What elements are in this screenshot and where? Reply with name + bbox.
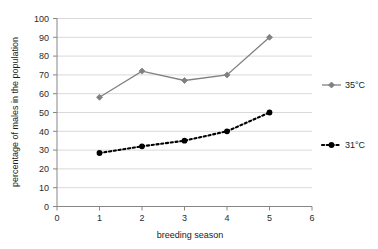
- y-tick-label: 60: [39, 89, 49, 99]
- y-tick-label: 70: [39, 70, 49, 80]
- x-tick-label: 3: [182, 213, 187, 223]
- data-point-marker: [224, 128, 230, 134]
- y-tick-label: 50: [39, 108, 49, 118]
- y-tick-label: 10: [39, 183, 49, 193]
- legend-marker-circle-icon: [329, 142, 335, 148]
- legend-label-35c: 35°C: [345, 80, 366, 90]
- data-point-marker: [182, 138, 188, 144]
- y-tick-label: 0: [44, 202, 49, 212]
- y-tick-label: 20: [39, 164, 49, 174]
- y-tick-label: 90: [39, 33, 49, 43]
- line-chart: 100 90 80 70 60 50 40 30 20 10 0 0 1 2 3…: [0, 0, 378, 249]
- y-tick-label: 100: [34, 14, 49, 24]
- x-axis-title: breeding season: [157, 230, 224, 240]
- y-tick-label: 30: [39, 145, 49, 155]
- data-point-marker: [139, 143, 145, 149]
- x-tick-label: 4: [224, 213, 229, 223]
- data-point-marker: [97, 150, 103, 156]
- x-tick-label: 2: [139, 213, 144, 223]
- y-axis-title: percentage of males in the population: [10, 37, 20, 187]
- x-tick-label: 5: [267, 213, 272, 223]
- data-point-marker: [267, 110, 273, 116]
- x-tick-label: 0: [54, 213, 59, 223]
- x-tick-label: 1: [97, 213, 102, 223]
- x-tick-label: 6: [309, 213, 314, 223]
- y-tick-label: 80: [39, 51, 49, 61]
- chart-canvas: 100 90 80 70 60 50 40 30 20 10 0 0 1 2 3…: [0, 0, 378, 249]
- y-tick-label: 40: [39, 127, 49, 137]
- legend-label-31c: 31°C: [345, 140, 366, 150]
